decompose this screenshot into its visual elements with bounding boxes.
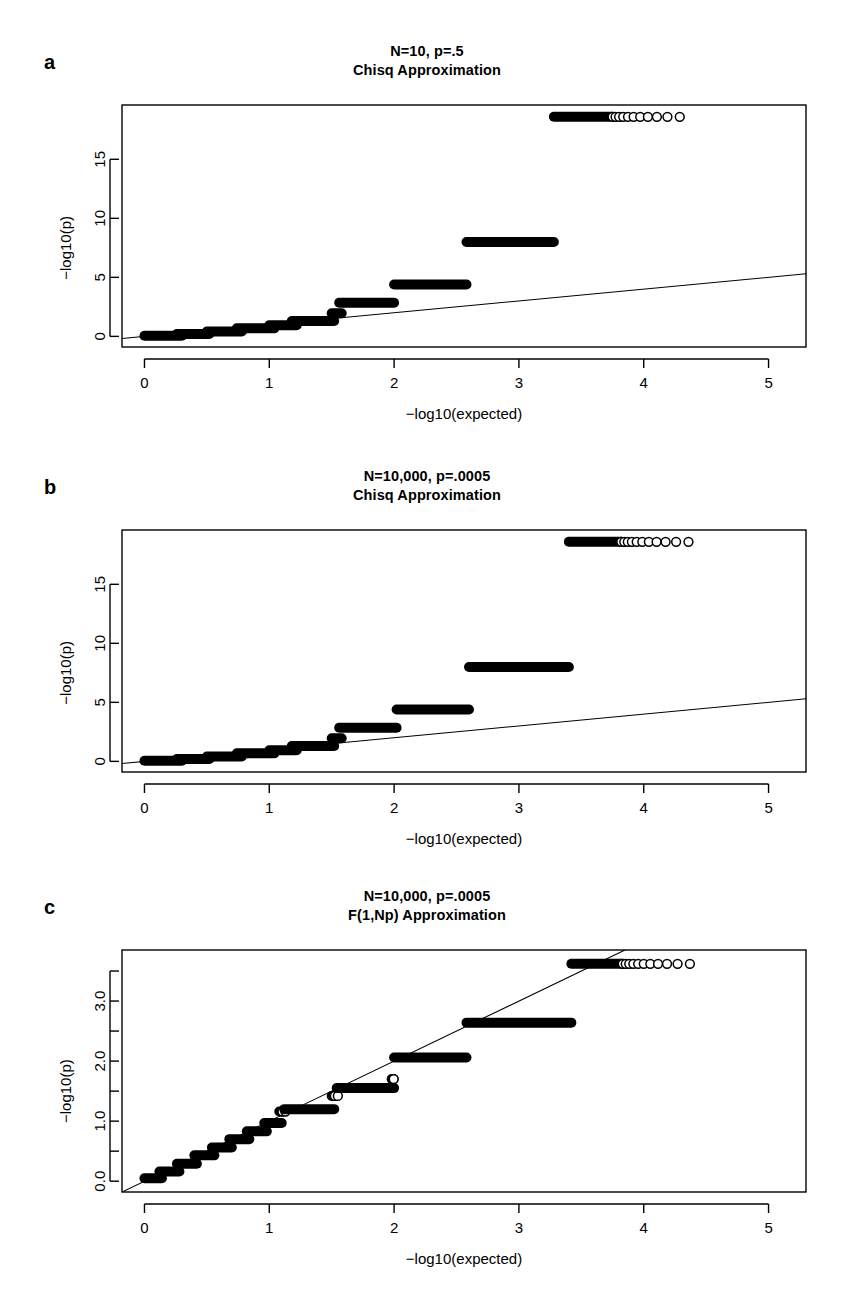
y-axis-tick-label: 15 <box>92 576 109 593</box>
y-axis-tick-label: 0.0 <box>92 1171 109 1192</box>
plot-area: 012345−log10(expected)051015−log10(p) <box>58 105 807 422</box>
x-axis: 012345−log10(expected) <box>140 784 772 847</box>
x-axis-tick-label: 2 <box>390 799 398 816</box>
data-point-open <box>661 537 670 546</box>
y-axis: 051015−log10(p) <box>58 576 120 766</box>
x-axis-tick-label: 3 <box>515 799 523 816</box>
x-axis-tick-label: 0 <box>140 374 148 391</box>
y-axis-tick-label: 10 <box>92 635 109 652</box>
data-point-open <box>652 537 661 546</box>
x-axis-tick-label: 1 <box>265 374 273 391</box>
panel-a-title-line2: Chisq Approximation <box>0 61 854 80</box>
panel-a-title-line1: N=10, p=.5 <box>0 42 854 61</box>
x-axis: 012345−log10(expected) <box>140 359 772 422</box>
panel-c-title-line2: F(1,Np) Approximation <box>0 906 854 925</box>
y-axis-tick-label: 0 <box>92 332 109 340</box>
x-axis-tick-label: 5 <box>764 1219 772 1236</box>
data-point-open <box>673 959 682 968</box>
data-point-open <box>685 959 694 968</box>
x-axis-tick-label: 3 <box>515 1219 523 1236</box>
plot-frame <box>122 950 806 1192</box>
data-point-open <box>654 959 663 968</box>
panel-a-plot: 012345−log10(expected)051015−log10(p) <box>0 95 854 425</box>
plot-frame <box>122 530 806 772</box>
x-axis-tick-label: 0 <box>140 1219 148 1236</box>
y-axis-tick-label: 3.0 <box>92 991 109 1012</box>
panel-b: b N=10,000, p=.0005 Chisq Approximation … <box>0 425 854 855</box>
panel-a-svg: 012345−log10(expected)051015−log10(p) <box>0 95 854 425</box>
y-axis: 051015−log10(p) <box>58 151 120 341</box>
data-point-open <box>663 112 672 121</box>
panel-b-title-line1: N=10,000, p=.0005 <box>0 467 854 486</box>
data-point-open <box>389 1075 398 1084</box>
y-axis: 0.01.02.03.0−log10(p) <box>58 971 120 1192</box>
panel-c-svg: 012345−log10(expected)0.01.02.03.0−log10… <box>0 940 854 1280</box>
panel-b-title: N=10,000, p=.0005 Chisq Approximation <box>0 467 854 504</box>
x-axis-tick-label: 2 <box>390 374 398 391</box>
y-axis-tick-label: 0 <box>92 757 109 765</box>
y-axis-tick-label: 5 <box>92 698 109 706</box>
x-axis-tick-label: 4 <box>640 1219 648 1236</box>
x-axis-tick-label: 4 <box>640 799 648 816</box>
y-axis-title: −log10(p) <box>58 216 75 280</box>
y-axis-tick-label: 5 <box>92 273 109 281</box>
panel-c: c N=10,000, p=.0005 F(1,Np) Approximatio… <box>0 845 854 1301</box>
plot-area: 012345−log10(expected)051015−log10(p) <box>58 530 807 847</box>
data-points-group <box>144 537 692 760</box>
y-axis-tick-label: 10 <box>92 210 109 227</box>
data-point-open <box>684 537 693 546</box>
panel-b-plot: 012345−log10(expected)051015−log10(p) <box>0 520 854 850</box>
data-points-group <box>144 112 684 335</box>
x-axis-tick-label: 2 <box>390 1219 398 1236</box>
x-axis: 012345−log10(expected) <box>140 1204 772 1267</box>
x-axis-tick-label: 3 <box>515 374 523 391</box>
x-axis-title: −log10(expected) <box>406 405 522 422</box>
x-axis-tick-label: 5 <box>764 374 772 391</box>
x-axis-tick-label: 5 <box>764 799 772 816</box>
data-point-open <box>663 959 672 968</box>
x-axis-tick-label: 0 <box>140 799 148 816</box>
data-points-group <box>144 959 694 1178</box>
panel-b-svg: 012345−log10(expected)051015−log10(p) <box>0 520 854 850</box>
data-point-open <box>643 112 652 121</box>
data-point-open <box>675 112 684 121</box>
y-axis-tick-label: 2.0 <box>92 1051 109 1072</box>
y-axis-title: −log10(p) <box>58 641 75 705</box>
y-axis-tick-label: 1.0 <box>92 1111 109 1132</box>
plot-frame <box>122 105 806 347</box>
data-point-open <box>653 112 662 121</box>
panel-a-title: N=10, p=.5 Chisq Approximation <box>0 42 854 79</box>
data-point-open <box>672 537 681 546</box>
panel-c-title: N=10,000, p=.0005 F(1,Np) Approximation <box>0 887 854 924</box>
x-axis-tick-label: 1 <box>265 1219 273 1236</box>
panel-c-title-line1: N=10,000, p=.0005 <box>0 887 854 906</box>
y-axis-title: −log10(p) <box>58 1059 75 1123</box>
y-axis-tick-label: 15 <box>92 151 109 168</box>
panel-b-title-line2: Chisq Approximation <box>0 486 854 505</box>
panel-c-plot: 012345−log10(expected)0.01.02.03.0−log10… <box>0 940 854 1280</box>
x-axis-tick-label: 1 <box>265 799 273 816</box>
x-axis-tick-label: 4 <box>640 374 648 391</box>
panel-a: a N=10, p=.5 Chisq Approximation 012345−… <box>0 0 854 430</box>
x-axis-title: −log10(expected) <box>406 1250 522 1267</box>
